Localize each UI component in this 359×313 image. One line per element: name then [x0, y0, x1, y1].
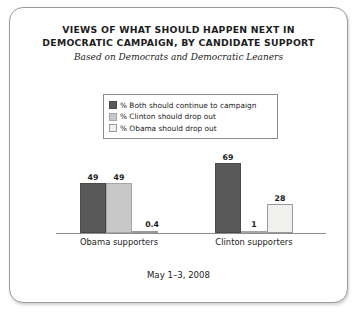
bar-obama-drop-out: 0.4: [132, 231, 158, 233]
bar-value-label: 1: [251, 220, 256, 229]
legend-item-label: % Both should continue to campaign: [120, 101, 256, 110]
chart-frame: VIEWS OF WHAT SHOULD HAPPEN NEXT IN DEMO…: [9, 7, 348, 303]
x-axis-category-label: Obama supporters: [80, 237, 158, 247]
chart-plot-area: 49 49 0.4 Obama supporters 69 1: [30, 148, 330, 246]
legend-swatch-icon: [109, 124, 117, 132]
bar-both-continue: 69: [215, 163, 241, 233]
legend-item: % Clinton should drop out: [109, 111, 272, 122]
bar-clinton-drop-out: 49: [106, 183, 132, 233]
page-title-line-1: VIEWS OF WHAT SHOULD HAPPEN NEXT IN: [10, 24, 347, 37]
chart-legend: % Both should continue to campaign % Cli…: [103, 94, 278, 139]
bar-obama-drop-out: 28: [267, 204, 293, 232]
legend-item-label: % Clinton should drop out: [120, 112, 216, 121]
legend-item-label: % Obama should drop out: [120, 124, 217, 133]
legend-swatch-icon: [109, 101, 117, 109]
bar-clinton-drop-out: 1: [241, 231, 267, 233]
bar-both-continue: 49: [80, 183, 106, 233]
chart-title-block: VIEWS OF WHAT SHOULD HAPPEN NEXT IN DEMO…: [10, 24, 347, 62]
bar-value-label: 69: [223, 153, 234, 162]
bar-value-label: 49: [88, 173, 99, 182]
chart-footer-date: May 1–3, 2008: [10, 270, 347, 280]
page-title-line-2: DEMOCRATIC CAMPAIGN, BY CANDIDATE SUPPOR…: [10, 37, 347, 50]
x-axis-baseline: [56, 233, 326, 234]
bar-value-label: 49: [114, 173, 125, 182]
legend-swatch-icon: [109, 113, 117, 121]
legend-item: % Both should continue to campaign: [109, 100, 272, 111]
bar-value-label: 0.4: [145, 220, 159, 229]
chart-subtitle: Based on Democrats and Democratic Leaner…: [10, 52, 347, 62]
legend-item: % Obama should drop out: [109, 123, 272, 134]
x-axis-category-label: Clinton supporters: [215, 237, 292, 247]
bar-value-label: 28: [275, 194, 286, 203]
